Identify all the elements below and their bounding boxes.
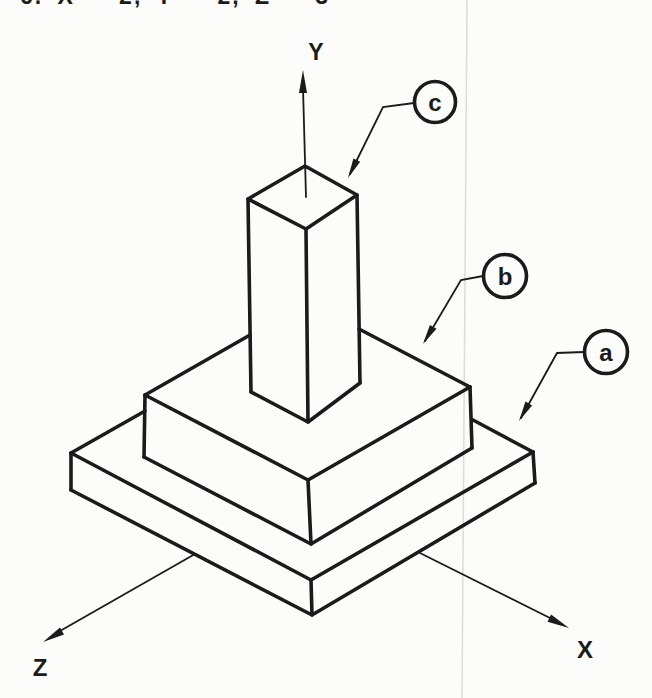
x-axis-arrowhead-icon bbox=[548, 615, 570, 628]
base-a-front-vertical-edge bbox=[311, 580, 312, 615]
y-axis-line bbox=[303, 88, 306, 197]
base-a-right-vertical-edge bbox=[533, 452, 535, 483]
base-a-top-back-left-edge bbox=[71, 411, 145, 453]
column-c-drawing bbox=[248, 166, 360, 422]
callout-b-label: b bbox=[498, 263, 513, 290]
y-axis-arrowhead-icon bbox=[299, 70, 307, 93]
callout-a: a bbox=[519, 331, 628, 422]
y-axis-label: Y bbox=[308, 39, 323, 65]
z-axis-line bbox=[60, 554, 195, 631]
scan-artifact-line bbox=[462, 0, 467, 698]
base-a-bottom-edges bbox=[71, 483, 535, 615]
callout-b: b bbox=[423, 255, 527, 345]
callout-c-arrowhead-icon bbox=[348, 158, 360, 178]
column-c-bottom-edges bbox=[251, 383, 360, 422]
block-b-right-vertical-edge bbox=[470, 387, 472, 448]
callout-a-arrowhead-icon bbox=[519, 402, 532, 421]
z-axis: Z bbox=[33, 554, 195, 681]
column-c-left-vertical-edge bbox=[248, 199, 251, 392]
block-b-top-back-right-edge bbox=[359, 329, 470, 387]
callout-a-label: a bbox=[599, 339, 613, 366]
x-axis-label: X bbox=[577, 636, 593, 663]
block-b-left-vertical-edge bbox=[144, 395, 145, 457]
callout-a-leader-line bbox=[521, 352, 584, 418]
column-c-top-face bbox=[248, 166, 357, 229]
x-axis-line bbox=[420, 553, 552, 619]
column-c-front-vertical-edge bbox=[306, 229, 308, 422]
z-axis-label: Z bbox=[33, 654, 48, 681]
callout-c-label: c bbox=[428, 89, 441, 116]
block-b-top-back-left-edge bbox=[145, 335, 250, 395]
x-axis: X bbox=[420, 553, 593, 663]
isometric-figure: Y X Z c b bbox=[0, 0, 652, 698]
block-b-front-vertical-edge bbox=[308, 480, 311, 544]
z-axis-arrowhead-icon bbox=[43, 628, 64, 643]
callout-b-arrowhead-icon bbox=[423, 325, 437, 344]
callout-c-leader-line bbox=[350, 103, 414, 174]
scanned-figure-page: 6. X = 2, Y = 2, Z = 3 bbox=[0, 0, 652, 698]
column-c-right-vertical-edge bbox=[357, 195, 360, 383]
callout-c: c bbox=[348, 82, 456, 179]
base-a-top-back-right-edge bbox=[473, 420, 533, 452]
